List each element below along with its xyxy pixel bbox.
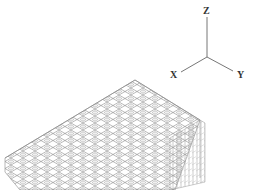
axis-triad: Z X Y (170, 5, 245, 80)
wireframe-mesh (5, 80, 205, 190)
z-axis-label: Z (203, 5, 210, 16)
3d-viewport[interactable]: Z X Y (0, 0, 256, 190)
x-axis-line (181, 57, 207, 72)
y-axis-label: Y (237, 69, 245, 80)
y-axis-line (207, 57, 233, 71)
x-axis-label: X (170, 69, 178, 80)
